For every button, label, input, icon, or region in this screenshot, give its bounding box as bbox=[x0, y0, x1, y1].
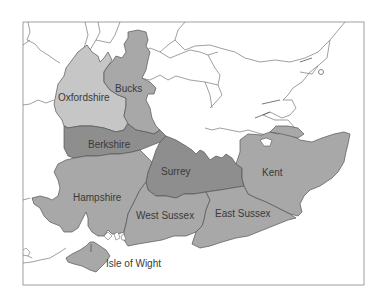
label-oxfordshire: Oxfordshire bbox=[58, 92, 110, 103]
label-isle-of-wight: Isle of Wight bbox=[106, 258, 161, 269]
label-hampshire: Hampshire bbox=[73, 192, 122, 203]
label-kent: Kent bbox=[262, 167, 283, 178]
label-berkshire: Berkshire bbox=[88, 139, 131, 150]
label-surrey: Surrey bbox=[161, 166, 190, 177]
label-east-sussex: East Sussex bbox=[215, 208, 271, 219]
map: Oxfordshire Bucks Berkshire Surrey Kent … bbox=[0, 0, 385, 306]
label-west-sussex: West Sussex bbox=[136, 210, 194, 221]
label-bucks: Bucks bbox=[115, 83, 142, 94]
